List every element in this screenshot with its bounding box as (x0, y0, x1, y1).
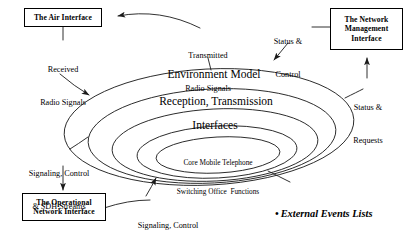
edge-transmitted-line1: Transmitted (160, 50, 256, 61)
arrow-transmitted-radio-signals (118, 14, 200, 28)
notes-line1-row: •External Events Lists (275, 207, 415, 221)
notes-line1: External Events Lists (281, 208, 373, 219)
node-network-management-interface[interactable]: The Network Management Interface (330, 8, 403, 50)
ring-label-core-functions-line1: Core Mobile Telephone (155, 158, 281, 168)
edge-status-control-line2: Control (262, 69, 314, 80)
edge-label-status-and-control: Status & Control (262, 14, 314, 103)
edge-label-transmitted-radio-signals: Transmitted Radio Signals (160, 28, 256, 117)
edge-label-signaling-control-sdh-out: Signaling, Control & SDH Streams (3, 146, 115, 234)
edge-transmitted-line2: Radio Signals (160, 83, 256, 94)
edge-status-requests-line2: Requests (340, 135, 396, 146)
ring-label-interfaces: Interfaces (150, 119, 280, 131)
node-nmi-label-line2: Management (345, 24, 389, 33)
edge-signaling-in-line1: Signaling, Control (112, 220, 224, 231)
edge-signaling-out-line2: & SDH Streams (3, 201, 115, 212)
node-air-interface-label: The Air Interface (34, 13, 92, 22)
diagram-canvas: The Air Interface The Network Management… (0, 0, 415, 234)
node-air-interface[interactable]: The Air Interface (24, 8, 102, 27)
edge-label-signaling-control-sdh-in: Signaling, Control & SDH Streams (112, 198, 224, 234)
edge-status-control-line1: Status & (262, 36, 314, 47)
edge-received-line2: Radio Signals (16, 97, 110, 108)
bullet-icon: • (275, 208, 279, 219)
ring-label-core-functions-line2: Switching Office Functions (155, 187, 281, 197)
edge-label-status-and-requests: Status & Requests (340, 80, 396, 169)
notes-list: •External Events Lists Event Response Li… (275, 180, 415, 234)
edge-label-received-radio-signals: Received Radio Signals (16, 42, 110, 131)
edge-signaling-out-line1: Signaling, Control (3, 168, 115, 179)
edge-status-requests-line1: Status & (340, 102, 396, 113)
edge-received-line1: Received (16, 64, 110, 75)
node-nmi-label-line3: Interface (351, 34, 381, 43)
node-nmi-label-line1: The Network (345, 15, 389, 24)
